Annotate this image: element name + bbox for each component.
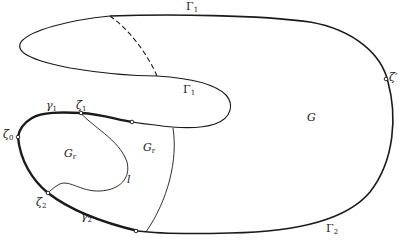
label-zeta-prime: ζ′ bbox=[389, 72, 397, 83]
label-G: G bbox=[307, 112, 316, 123]
point-gamma1-end bbox=[130, 120, 134, 124]
label-zeta2: ζ2 bbox=[36, 197, 46, 210]
label-gamma2: γ2 bbox=[81, 211, 92, 224]
outer-boundary-gamma2 bbox=[138, 82, 393, 234]
dashed-crosscut bbox=[110, 16, 157, 76]
point-zeta2 bbox=[46, 191, 50, 195]
point-gamma2-end bbox=[134, 229, 138, 233]
label-zeta1: ζ1 bbox=[76, 100, 86, 113]
inner-lobe-boundary bbox=[132, 76, 231, 128]
label-Gr-right: Gr bbox=[143, 142, 155, 155]
point-zeta0 bbox=[16, 135, 20, 139]
label-l: l bbox=[127, 174, 131, 185]
curve-l bbox=[48, 113, 128, 193]
domain-diagram bbox=[0, 0, 409, 242]
outer-boundary-gamma1 bbox=[110, 15, 388, 82]
arc-gamma1 bbox=[18, 113, 132, 137]
label-zeta0: ζ0 bbox=[3, 129, 13, 142]
label-Gamma1-top: Γ1 bbox=[186, 1, 198, 14]
label-Gamma1-inner: Γ1 bbox=[183, 84, 195, 97]
label-gamma1: γ1 bbox=[46, 100, 57, 113]
point-zeta-prime bbox=[384, 77, 388, 81]
label-Gr-left: Gr bbox=[64, 148, 76, 161]
upper-lobe-boundary bbox=[20, 16, 157, 76]
label-Gamma2: Γ2 bbox=[326, 223, 338, 236]
